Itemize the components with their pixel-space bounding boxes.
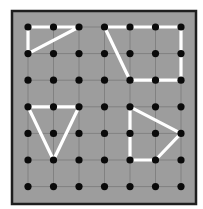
peg bbox=[126, 77, 133, 84]
peg bbox=[101, 77, 108, 84]
peg bbox=[177, 103, 184, 110]
peg bbox=[152, 103, 159, 110]
peg bbox=[50, 103, 57, 110]
peg bbox=[24, 103, 31, 110]
peg bbox=[152, 183, 159, 190]
peg bbox=[177, 23, 184, 30]
peg bbox=[101, 130, 108, 137]
peg bbox=[126, 103, 133, 110]
peg bbox=[75, 50, 82, 57]
peg bbox=[50, 130, 57, 137]
peg bbox=[75, 103, 82, 110]
peg bbox=[101, 23, 108, 30]
peg bbox=[177, 183, 184, 190]
peg bbox=[126, 50, 133, 57]
peg bbox=[24, 23, 31, 30]
peg bbox=[152, 77, 159, 84]
peg bbox=[126, 156, 133, 163]
peg bbox=[75, 156, 82, 163]
peg bbox=[177, 50, 184, 57]
peg bbox=[50, 23, 57, 30]
geoboard bbox=[0, 0, 203, 209]
peg bbox=[152, 50, 159, 57]
peg bbox=[126, 130, 133, 137]
peg bbox=[24, 156, 31, 163]
peg bbox=[24, 50, 31, 57]
peg bbox=[50, 156, 57, 163]
peg bbox=[101, 156, 108, 163]
peg bbox=[152, 156, 159, 163]
peg bbox=[75, 130, 82, 137]
peg bbox=[177, 130, 184, 137]
peg bbox=[75, 23, 82, 30]
peg bbox=[50, 77, 57, 84]
peg bbox=[177, 156, 184, 163]
peg bbox=[101, 183, 108, 190]
peg bbox=[126, 183, 133, 190]
peg bbox=[126, 23, 133, 30]
peg bbox=[152, 23, 159, 30]
peg bbox=[24, 77, 31, 84]
peg bbox=[24, 183, 31, 190]
peg bbox=[75, 183, 82, 190]
peg bbox=[50, 50, 57, 57]
peg bbox=[101, 50, 108, 57]
peg bbox=[152, 130, 159, 137]
peg bbox=[75, 77, 82, 84]
peg bbox=[101, 103, 108, 110]
peg bbox=[177, 77, 184, 84]
peg bbox=[24, 130, 31, 137]
peg bbox=[50, 183, 57, 190]
